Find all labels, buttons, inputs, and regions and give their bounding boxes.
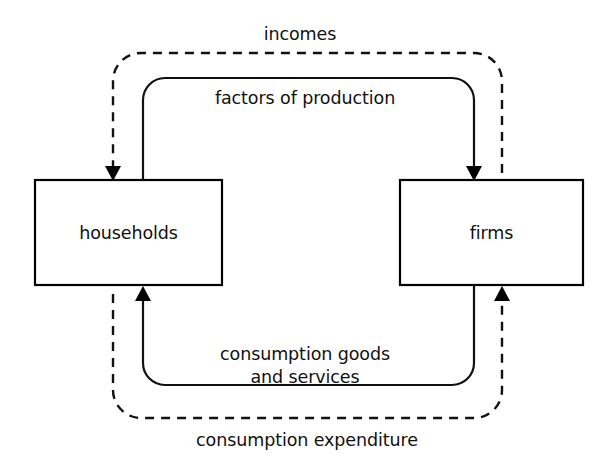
- arrow-goods-into-households-icon: [135, 286, 151, 301]
- node-firms-label: firms: [470, 223, 514, 243]
- flow-label-incomes: incomes: [264, 24, 337, 44]
- arrow-expenditure-into-firms-icon: [494, 286, 510, 301]
- arrow-factors-into-firms-icon: [466, 166, 482, 181]
- node-households-label: households: [79, 223, 178, 243]
- flow-label-consumption-goods-line2: and services: [250, 367, 359, 387]
- flow-label-factors-of-production: factors of production: [215, 88, 395, 108]
- arrow-incomes-into-households-icon: [105, 166, 121, 181]
- circular-flow-diagram: households firms incomes factors of prod…: [0, 0, 607, 468]
- diagram-canvas: households firms incomes factors of prod…: [0, 0, 607, 468]
- incomes-flow-line: [113, 53, 502, 173]
- flow-label-consumption-expenditure: consumption expenditure: [196, 430, 418, 450]
- flow-label-consumption-goods-line1: consumption goods: [220, 344, 390, 364]
